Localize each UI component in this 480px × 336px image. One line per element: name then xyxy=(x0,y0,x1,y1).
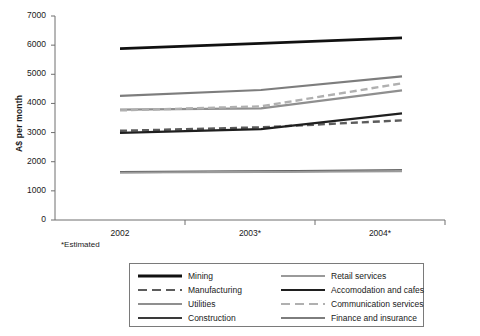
legend-item-label: Utilities xyxy=(188,299,215,309)
legend-item[interactable]: Construction xyxy=(138,311,242,325)
y-axis-tick-label: 5000 xyxy=(10,68,46,78)
legend-item[interactable]: Mining xyxy=(138,269,242,283)
legend-item-label: Mining xyxy=(188,271,213,281)
legend-column-right: Retail servicesAccomodation and cafesCom… xyxy=(281,269,424,325)
x-axis-tick-label: 2002 xyxy=(90,228,150,238)
x-axis-tick-label: 2003* xyxy=(220,228,280,238)
y-axis-tick-label: 7000 xyxy=(10,10,46,20)
y-axis-tick-label: 0 xyxy=(10,214,46,224)
y-axis-tick-label: 1000 xyxy=(10,185,46,195)
legend-item-label: Construction xyxy=(188,313,236,323)
series-line-finance-and-insurance xyxy=(120,76,402,96)
legend-column-left: MiningManufacturingUtilitiesConstruction xyxy=(138,269,242,325)
y-axis-tick-label: 4000 xyxy=(10,97,46,107)
legend-swatch-icon xyxy=(138,299,182,309)
legend-swatch-icon xyxy=(138,285,182,295)
series-line-accomodation-and-cafes xyxy=(120,113,402,133)
legend-item[interactable]: Finance and insurance xyxy=(281,311,424,325)
legend-swatch-icon xyxy=(281,285,325,295)
legend-item-label: Accomodation and cafes xyxy=(331,285,424,295)
legend-item-label: Manufacturing xyxy=(188,285,242,295)
series-line-mining xyxy=(120,38,402,49)
legend-item-label: Finance and insurance xyxy=(331,313,417,323)
y-axis-tick-label: 2000 xyxy=(10,156,46,166)
legend-item[interactable]: Accomodation and cafes xyxy=(281,283,424,297)
series-line-retail-services xyxy=(120,171,402,172)
legend-swatch-icon xyxy=(281,271,325,281)
legend-item[interactable]: Communication services xyxy=(281,297,424,311)
series-line-communication-services xyxy=(120,83,402,110)
chart-container: A$ per month 010002000300040005000600070… xyxy=(0,0,480,336)
legend-swatch-icon xyxy=(281,313,325,323)
legend-item-label: Retail services xyxy=(331,271,386,281)
legend-item-label: Communication services xyxy=(331,299,424,309)
y-axis-tick-label: 3000 xyxy=(10,127,46,137)
x-axis-tick-label: 2004* xyxy=(350,228,410,238)
legend-swatch-icon xyxy=(138,271,182,281)
y-axis-tick-label: 6000 xyxy=(10,39,46,49)
footnote: *Estimated xyxy=(61,240,100,249)
legend-item[interactable]: Manufacturing xyxy=(138,283,242,297)
chart-legend: MiningManufacturingUtilitiesConstruction… xyxy=(129,263,424,327)
legend-swatch-icon xyxy=(138,313,182,323)
legend-swatch-icon xyxy=(281,299,325,309)
legend-item[interactable]: Retail services xyxy=(281,269,424,283)
legend-item[interactable]: Utilities xyxy=(138,297,242,311)
